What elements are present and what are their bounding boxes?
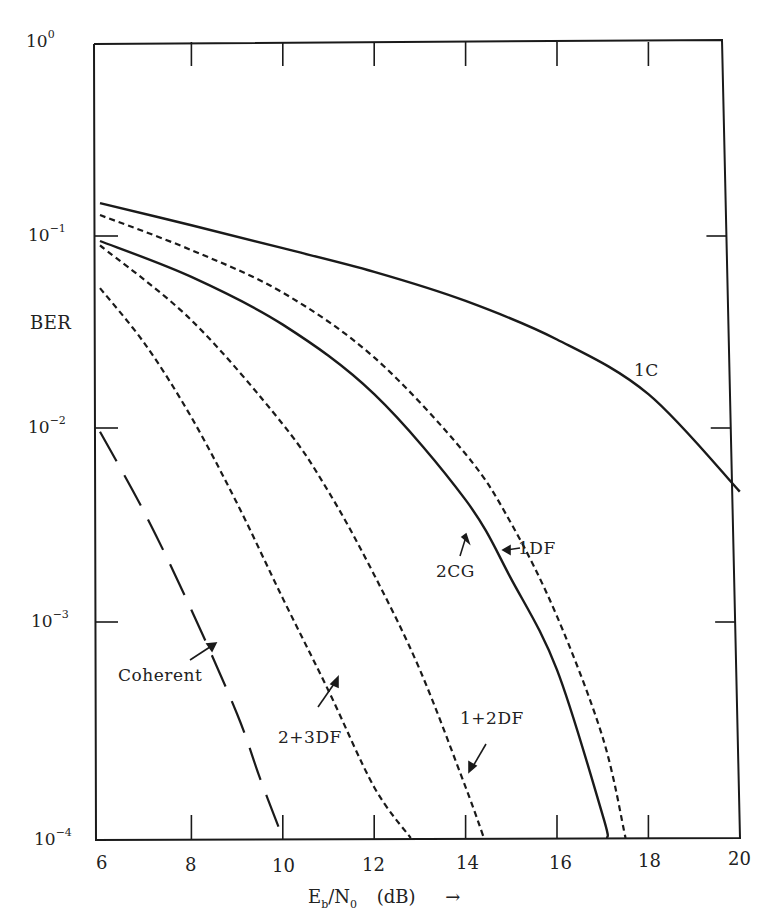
y-tick-base: 10 — [31, 611, 53, 631]
y-tick-label-1: 10−1 — [28, 224, 66, 245]
x-label-unit: (dB) — [377, 886, 416, 907]
annotation-2-3df: 2+3DF — [278, 727, 342, 747]
axis-ticks — [95, 42, 735, 839]
curve-coherent — [100, 432, 283, 838]
y-tick-exp: −4 — [56, 826, 72, 839]
x-label-e: E — [308, 886, 321, 907]
ber-chart — [0, 0, 769, 914]
y-tick-label-4: 10−4 — [34, 828, 72, 849]
x-tick-label: 6 — [96, 852, 107, 873]
x-tick-label: 14 — [456, 852, 479, 873]
y-tick-label-3: 10−3 — [31, 610, 69, 631]
curves — [100, 203, 740, 838]
y-tick-label-2: 10−2 — [28, 416, 66, 437]
curve-1c — [100, 203, 740, 492]
y-tick-base: 10 — [28, 225, 50, 245]
annotation-1-2df: 1+2DF — [460, 708, 524, 728]
y-tick-base: 10 — [26, 31, 48, 51]
x-tick-label: 10 — [272, 855, 295, 876]
x-tick-label: 20 — [728, 848, 751, 869]
y-tick-exp: −1 — [50, 222, 66, 235]
x-axis-label: Eb/N0 (dB) → — [308, 886, 460, 911]
y-tick-label-0: 100 — [26, 30, 55, 51]
y-tick-exp: −2 — [50, 414, 66, 427]
x-label-n: N — [334, 886, 350, 907]
x-tick-label: 8 — [185, 854, 196, 875]
annotation-coherent: Coherent — [118, 665, 202, 685]
annotation-1df: 1DF — [518, 538, 556, 558]
y-tick-exp: 0 — [48, 28, 55, 41]
y-tick-exp: −3 — [53, 608, 69, 621]
x-tick-label: 12 — [362, 854, 385, 875]
y-tick-base: 10 — [28, 417, 50, 437]
annotation-2cg: 2CG — [436, 561, 475, 581]
y-axis-label: BER — [30, 312, 71, 333]
annotation-1c: 1C — [634, 360, 659, 380]
y-tick-base: 10 — [34, 829, 56, 849]
x-tick-label: 16 — [549, 852, 572, 873]
curve-1-2df — [100, 245, 484, 838]
arrow-right-icon: → — [445, 886, 460, 907]
x-label-0: 0 — [350, 898, 357, 911]
x-tick-label: 18 — [638, 850, 661, 871]
curve-2-3df — [100, 288, 411, 838]
